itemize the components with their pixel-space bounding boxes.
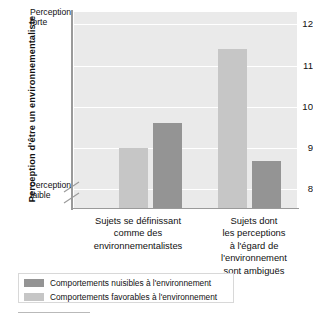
legend-swatch-icon bbox=[24, 279, 44, 287]
y-tick-label-11: 11 bbox=[249, 60, 313, 71]
legend-swatch-icon bbox=[24, 293, 44, 301]
category-label-line: comme des bbox=[78, 227, 198, 239]
bar-g1-s0 bbox=[218, 49, 247, 208]
y-tick-label-10: 10 bbox=[249, 101, 313, 112]
legend-label: Comportements nuisibles à l'environnemen… bbox=[50, 278, 211, 288]
y-tick-label-8: 8 bbox=[249, 183, 313, 194]
footer-rule bbox=[18, 312, 90, 313]
category-label-line: Sujets se définissant bbox=[78, 215, 198, 227]
category-label-line: les perceptions bbox=[204, 227, 304, 239]
y-axis-top-note: Perception forte bbox=[30, 8, 74, 27]
y-axis-bottom-note: Perception faible bbox=[30, 181, 74, 200]
category-label-line: à l'égard de bbox=[204, 240, 304, 252]
category-label-line: environnementalistes bbox=[78, 240, 198, 252]
x-axis-category-label-1: Sujets dontles perceptionsà l'égard del'… bbox=[204, 215, 304, 277]
legend-label: Comportements favorables à l'environneme… bbox=[50, 292, 217, 302]
legend-item-1: Comportements favorables à l'environneme… bbox=[24, 291, 233, 303]
bar-g0-s0 bbox=[119, 148, 148, 208]
legend-item-0: Comportements nuisibles à l'environnemen… bbox=[24, 277, 233, 289]
category-label-line: l'environnement bbox=[204, 252, 304, 264]
bar-g0-s1 bbox=[153, 123, 182, 208]
y-tick-label-9: 9 bbox=[249, 142, 313, 153]
y-tick-label-12: 12 bbox=[249, 18, 313, 29]
x-axis-line bbox=[71, 208, 299, 210]
category-label-line: Sujets dont bbox=[204, 215, 304, 227]
x-axis-category-label-0: Sujets se définissantcomme desenvironnem… bbox=[78, 215, 198, 252]
chart-legend: Comportements nuisibles à l'environnemen… bbox=[18, 273, 234, 303]
